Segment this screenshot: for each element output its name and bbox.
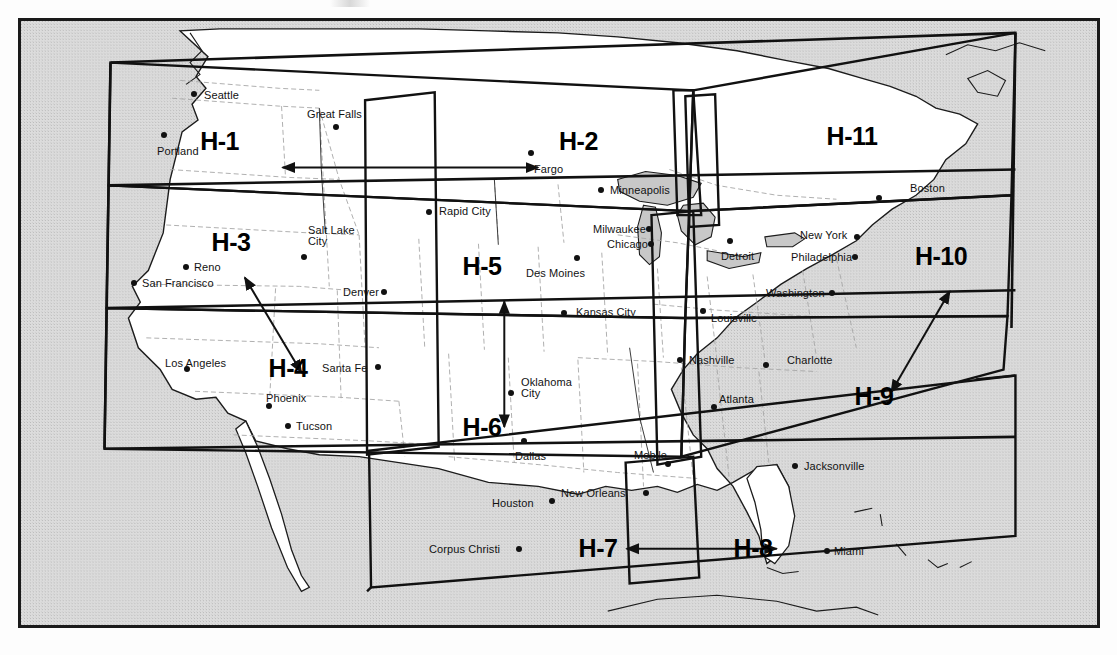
city-dot [665,461,671,467]
city-dot [521,438,527,444]
city-label: Mobile [634,450,667,461]
city-dot [876,195,882,201]
city-label: San Francisco [142,278,214,289]
city-label: Dallas [515,451,546,462]
city-label: Nashville [689,355,735,366]
city-dot [700,308,706,314]
city-label: Atlanta [719,394,754,405]
city-dot [528,150,534,156]
city-dot [646,226,652,232]
city-label: Great Falls [307,109,362,120]
region-label-h-9: H-9 [855,382,894,411]
city-dot [375,364,381,370]
city-label: New Orleans [561,488,626,499]
city-label: Reno [194,262,221,273]
city-dot [285,423,291,429]
region-label-h-3: H-3 [212,228,251,257]
city-label: Detroit [721,251,754,262]
city-label: Des Moines [526,268,585,279]
city-label: Oklahoma City [521,377,572,399]
city-label: Philadelphia [791,252,852,263]
region-label-h-11: H-11 [827,122,878,151]
city-dot [854,234,860,240]
city-dot [131,280,137,286]
city-dot [763,362,769,368]
city-dot [301,254,307,260]
city-dot [643,490,649,496]
city-label: Washington [766,288,825,299]
city-label: New York [800,230,847,241]
city-label: Houston [492,498,534,509]
region-label-h-4: H-4 [269,354,308,383]
city-label: Tucson [296,421,332,432]
scan-artifact [330,0,370,7]
map-graphic [21,21,1097,625]
city-label: Louisville [711,313,757,324]
city-dot [598,187,604,193]
city-label: Los Angeles [165,358,226,369]
city-label: Rapid City [439,206,491,217]
region-label-h-1: H-1 [200,127,239,156]
city-label: Phoenix [266,393,306,404]
city-label: Charlotte [787,355,833,366]
city-dot [508,390,514,396]
region-label-h-7: H-7 [579,534,618,563]
city-label: Minneapolis [610,185,670,196]
city-label: Corpus Christi [429,544,500,555]
city-dot [516,546,522,552]
region-label-h-2: H-2 [559,127,598,156]
city-dot [333,124,339,130]
city-dot [824,548,830,554]
city-label: Kansas City [576,307,636,318]
city-dot [829,290,835,296]
city-label: Seattle [204,90,239,101]
map-screenshot: SeattlePortlandGreat FallsFargoMinneapol… [0,0,1117,655]
city-dot [792,463,798,469]
city-label: Denver [343,287,379,298]
city-dot [183,264,189,270]
city-dot [191,91,197,97]
city-label: Salt Lake City [308,225,355,247]
city-label: Jacksonville [804,461,865,472]
city-dot [161,132,167,138]
city-dot [381,289,387,295]
city-label: Miami [834,546,864,557]
city-dot [852,254,858,260]
city-label: Chicago [607,239,648,250]
city-dot [561,310,567,316]
city-dot [549,498,555,504]
city-label: Santa Fe [322,363,367,374]
city-label: Boston [910,183,945,194]
city-dot [711,404,717,410]
city-label: Portland [157,146,199,157]
city-dot [426,209,432,215]
city-dot [677,357,683,363]
map-frame: SeattlePortlandGreat FallsFargoMinneapol… [18,18,1100,628]
region-label-h-6: H-6 [463,413,502,442]
region-label-h-8: H-8 [734,534,773,563]
region-label-h-10: H-10 [915,242,967,271]
city-dot [727,238,733,244]
city-label: Fargo [534,164,563,175]
city-dot [648,241,654,247]
city-label: Milwaukee [593,224,646,235]
city-dot [574,255,580,261]
region-label-h-5: H-5 [463,252,502,281]
